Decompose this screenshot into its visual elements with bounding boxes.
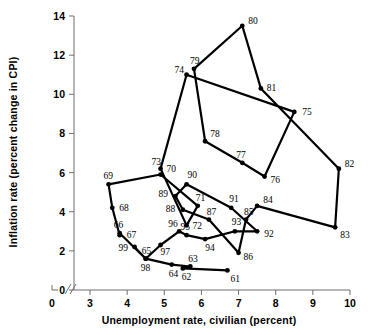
- data-point-marker: [232, 229, 237, 234]
- y-axis-title: Inflation rate (percent change in CPI): [7, 57, 19, 248]
- x-tick-label: 7: [236, 297, 242, 309]
- x-tick-label: 5: [161, 297, 167, 309]
- data-point-label: 80: [248, 16, 258, 26]
- data-point-label: 67: [127, 230, 137, 240]
- data-point-marker: [255, 203, 260, 208]
- data-point-label: 86: [244, 252, 254, 262]
- x-tick-label: 0: [49, 297, 55, 309]
- data-point-label: 62: [182, 272, 192, 282]
- data-point-marker: [225, 268, 230, 273]
- data-point-label: 76: [271, 175, 281, 185]
- data-point-marker: [180, 266, 185, 271]
- y-tick-label: 12: [53, 49, 65, 61]
- data-point-marker: [106, 182, 111, 187]
- y-tick-label: 0: [59, 284, 65, 296]
- data-point-label: 83: [340, 230, 350, 240]
- data-point-marker: [143, 256, 148, 261]
- data-point-label: 79: [190, 56, 200, 66]
- data-point-label: 81: [267, 83, 277, 93]
- data-point-label: 91: [229, 194, 239, 204]
- data-point-label: 94: [205, 243, 215, 253]
- data-point-marker: [203, 139, 208, 144]
- data-point-label: 84: [263, 195, 273, 205]
- data-point-marker: [203, 237, 208, 242]
- data-point-label: 88: [166, 204, 176, 214]
- data-point-marker: [244, 217, 249, 222]
- data-point-marker: [255, 229, 260, 234]
- data-point-marker: [110, 205, 115, 210]
- data-point-label: 89: [158, 189, 168, 199]
- data-point-label: 69: [104, 171, 114, 181]
- data-point-marker: [169, 262, 174, 267]
- data-point-label: 87: [207, 207, 217, 217]
- data-point-marker: [158, 166, 163, 171]
- y-tick-label: 10: [53, 88, 65, 100]
- x-tick-label: 6: [199, 297, 205, 309]
- phillips-curve-chart: 02468101214 0345678910 61626364656667686…: [0, 0, 368, 335]
- data-point-label: 85: [244, 207, 254, 217]
- data-point-label: 82: [345, 159, 355, 169]
- y-tick-label: 6: [59, 167, 65, 179]
- x-axis-title: Unemployment rate, civilian (percent): [102, 314, 297, 326]
- data-point-marker: [240, 160, 245, 165]
- data-point-marker: [258, 86, 263, 91]
- y-tick-label: 4: [59, 206, 65, 218]
- data-point-label: 73: [152, 157, 162, 167]
- data-point-marker: [336, 166, 341, 171]
- data-point-label: 78: [210, 129, 220, 139]
- data-point-label: 66: [114, 220, 124, 230]
- data-point-marker: [333, 225, 338, 230]
- data-point-label: 97: [161, 247, 171, 257]
- data-point-marker: [184, 233, 189, 238]
- x-tick-label: 4: [124, 297, 130, 309]
- x-tick-label: 10: [344, 297, 356, 309]
- x-tick-label: 9: [310, 297, 316, 309]
- data-point-marker: [240, 23, 245, 28]
- data-point-marker: [262, 174, 267, 179]
- data-point-label: 65: [142, 246, 152, 256]
- data-point-label: 99: [119, 243, 129, 253]
- data-point-label: 63: [188, 254, 198, 264]
- data-point-marker: [292, 110, 297, 115]
- chart-canvas: 02468101214 0345678910 61626364656667686…: [0, 0, 368, 335]
- data-point-label: 77: [236, 150, 246, 160]
- y-tick-label: 8: [59, 127, 65, 139]
- data-point-marker: [192, 66, 197, 71]
- data-point-marker: [173, 194, 178, 199]
- y-tick-label: 14: [53, 10, 65, 22]
- data-point-label: 64: [169, 269, 179, 279]
- data-point-label: 75: [302, 107, 312, 117]
- data-point-marker: [117, 233, 122, 238]
- data-point-marker: [229, 205, 234, 210]
- data-point-marker: [195, 203, 200, 208]
- data-point-marker: [184, 72, 189, 77]
- data-point-marker: [180, 207, 185, 212]
- data-point-label: 92: [264, 229, 274, 239]
- data-point-label: 71: [196, 193, 206, 203]
- data-point-marker: [184, 182, 189, 187]
- data-point-label: 95: [181, 222, 191, 232]
- data-point-marker: [206, 217, 211, 222]
- data-point-label: 98: [141, 263, 151, 273]
- y-tick-label: 2: [59, 245, 65, 257]
- data-point-label: 96: [168, 219, 178, 229]
- data-point-label: 70: [167, 164, 177, 174]
- data-point-marker: [158, 172, 163, 177]
- data-point-label: 61: [230, 274, 240, 284]
- x-tick-label: 8: [273, 297, 279, 309]
- data-point-marker: [236, 250, 241, 255]
- data-point-marker: [188, 264, 193, 269]
- data-point-marker: [132, 245, 137, 250]
- data-point-label: 68: [119, 203, 129, 213]
- data-point-label: 93: [232, 217, 242, 227]
- data-point-label: 72: [193, 221, 203, 231]
- data-point-label: 74: [175, 65, 185, 75]
- x-tick-label: 3: [87, 297, 93, 309]
- data-point-label: 90: [188, 170, 198, 180]
